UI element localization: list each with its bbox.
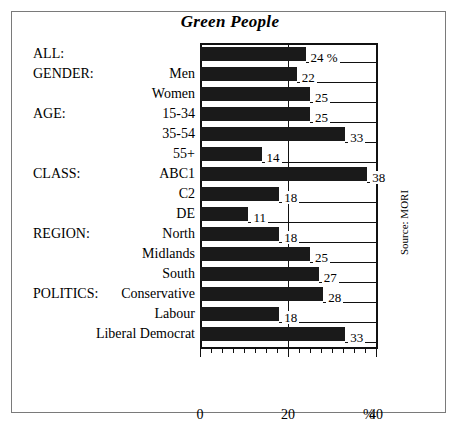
- bar: [200, 327, 345, 341]
- x-tick-minor: [255, 347, 256, 353]
- category-label: Labour: [35, 306, 195, 322]
- bar-row: 18: [200, 225, 378, 245]
- x-tick-minor: [321, 347, 322, 353]
- bar-row: 18: [200, 185, 378, 205]
- x-tick-minor: [211, 347, 212, 353]
- category-label: Men: [35, 66, 195, 82]
- x-tick-minor: [277, 347, 278, 353]
- bar: [200, 287, 323, 301]
- category-label: DE: [35, 206, 195, 222]
- category-label: ABC1: [35, 166, 195, 182]
- bar-row: 22: [200, 65, 378, 85]
- bar: [200, 47, 306, 61]
- bar-row: 11: [200, 205, 378, 225]
- category-label: Liberal Democrat: [35, 326, 195, 342]
- bar-row: 14: [200, 145, 378, 165]
- category-label: Conservative: [35, 286, 195, 302]
- category-label: 35-54: [35, 126, 195, 142]
- bar-row: 28: [200, 285, 378, 305]
- x-tick-minor: [299, 347, 300, 353]
- bar-value-label: 18: [282, 311, 299, 324]
- category-label: Midlands: [35, 246, 195, 262]
- x-tick-major: [376, 347, 377, 357]
- chart-title: Green People: [0, 12, 460, 32]
- bar-value-label: 22: [300, 71, 317, 84]
- category-label: North: [35, 226, 195, 242]
- bar-value-label: 25: [313, 251, 330, 264]
- bar: [200, 147, 262, 161]
- bar: [200, 267, 319, 281]
- bar: [200, 307, 279, 321]
- bar-value-label: 14: [265, 151, 282, 164]
- bar-row: 18: [200, 305, 378, 325]
- category-label: Women: [35, 86, 195, 102]
- x-tick-minor: [343, 347, 344, 353]
- bar-value-label: 18: [282, 231, 299, 244]
- bar: [200, 187, 279, 201]
- bar: [200, 127, 345, 141]
- plot-area: 24 %2225253314381811182527281833 02040 %: [200, 43, 378, 349]
- x-tick-minor: [365, 347, 366, 353]
- bar-row: 24 %: [200, 45, 378, 65]
- bar: [200, 247, 310, 261]
- category-label: South: [35, 266, 195, 282]
- bar-value-label: 38: [370, 171, 387, 184]
- bar-row: 25: [200, 245, 378, 265]
- bar-row: 27: [200, 265, 378, 285]
- bar-value-label: 18: [282, 191, 299, 204]
- bar: [200, 227, 279, 241]
- plot-bottom-axis: [200, 347, 378, 349]
- bar-row: 33: [200, 325, 378, 345]
- source-note: Source: MORI: [398, 190, 410, 255]
- x-tick-major: [200, 347, 201, 357]
- bar: [200, 207, 248, 221]
- bar-value-label: 33: [348, 131, 365, 144]
- bar-value-label: 33: [348, 331, 365, 344]
- bar-row: 33: [200, 125, 378, 145]
- bar: [200, 107, 310, 121]
- x-axis-unit-label: %: [363, 407, 375, 423]
- bar: [200, 167, 367, 181]
- category-label: 55+: [35, 146, 195, 162]
- x-tick-minor: [233, 347, 234, 353]
- category-label: C2: [35, 186, 195, 202]
- bar-value-label: 11: [251, 211, 268, 224]
- bar-row: 38: [200, 165, 378, 185]
- bar: [200, 67, 297, 81]
- bar-value-label: 28: [326, 291, 343, 304]
- x-tick-minor: [332, 347, 333, 353]
- bar-value-label: 24 %: [309, 51, 340, 64]
- x-tick-minor: [222, 347, 223, 353]
- bar-value-label: 25: [313, 91, 330, 104]
- bar-value-label: 27: [322, 271, 339, 284]
- bar-row: 25: [200, 85, 378, 105]
- x-tick-label: 20: [273, 407, 303, 423]
- chart-page: Green People 24 %22252533143818111825272…: [0, 0, 460, 430]
- x-tick-minor: [266, 347, 267, 353]
- x-tick-minor: [310, 347, 311, 353]
- x-tick-minor: [244, 347, 245, 353]
- x-tick-label: 0: [185, 407, 215, 423]
- x-tick-major: [288, 347, 289, 357]
- x-tick-minor: [354, 347, 355, 353]
- category-label: 15-34: [35, 106, 195, 122]
- bar-value-label: 25: [313, 111, 330, 124]
- bar-row: 25: [200, 105, 378, 125]
- group-label: ALL:: [33, 46, 64, 62]
- bar: [200, 87, 310, 101]
